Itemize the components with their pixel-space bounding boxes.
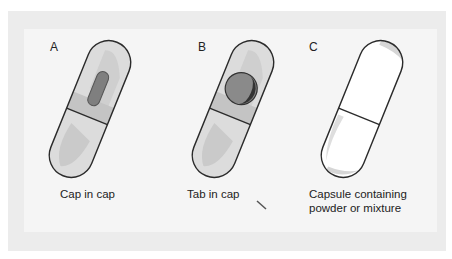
stray-mark xyxy=(257,201,266,209)
panel-c: C Capsule containing powder or mixture xyxy=(299,29,439,232)
capsule-cap-in-cap-illustration xyxy=(40,29,180,232)
panel-b-caption: Tab in cap xyxy=(187,187,239,201)
figure-panel: A Cap in cap B xyxy=(24,29,437,232)
panel-c-caption: Capsule containing powder or mixture xyxy=(309,187,407,215)
capsule-tab-in-cap-illustration xyxy=(174,29,314,232)
panel-a-caption: Cap in cap xyxy=(60,187,115,201)
panel-a: A Cap in cap xyxy=(40,29,180,232)
panel-b: B Tab in cap xyxy=(174,29,314,232)
